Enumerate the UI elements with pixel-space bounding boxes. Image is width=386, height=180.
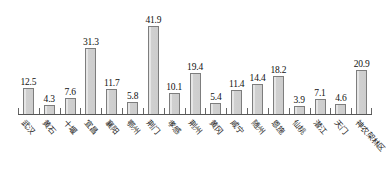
x-tick [289, 108, 310, 114]
bar-value-label: 31.3 [83, 37, 99, 47]
x-tick [185, 108, 206, 114]
tick-mark [80, 108, 81, 114]
category-label: 十堰 [61, 118, 78, 136]
tick-mark [143, 108, 144, 114]
bar-group: 5.8 [122, 6, 143, 114]
bar [85, 48, 96, 114]
x-label-slot: 黄石 [39, 116, 60, 180]
category-label: 荆州 [186, 118, 203, 136]
category-label: 黄石 [41, 118, 58, 136]
bar-value-label: 7.1 [314, 88, 325, 98]
tick-mark [164, 108, 165, 114]
bar-group: 41.9 [143, 6, 164, 114]
tick-mark [289, 108, 290, 114]
x-tick [247, 108, 268, 114]
tick-mark [226, 108, 227, 114]
category-label: 神农架林区 [353, 118, 386, 154]
x-label-slot: 孝感 [164, 116, 185, 180]
x-tick [164, 108, 185, 114]
bar-value-label: 18.2 [270, 65, 286, 75]
x-axis-ticks [18, 108, 372, 114]
x-label-slot: 荆门 [143, 116, 164, 180]
category-label: 潜江 [311, 118, 328, 136]
x-tick [122, 108, 143, 114]
x-label-slot: 潜江 [310, 116, 331, 180]
category-label: 荆门 [145, 118, 162, 136]
x-tick [268, 108, 289, 114]
bar-group: 18.2 [268, 6, 289, 114]
bar-group: 5.4 [205, 6, 226, 114]
x-tick [39, 108, 60, 114]
tick-mark [39, 108, 40, 114]
bar [148, 26, 159, 114]
bar-group: 11.4 [226, 6, 247, 114]
x-tick [205, 108, 226, 114]
bar-group: 11.7 [101, 6, 122, 114]
category-label: 咸宁 [228, 118, 245, 136]
x-label-slot: 鄂州 [122, 116, 143, 180]
tick-mark [18, 108, 19, 114]
tick-mark [185, 108, 186, 114]
plot-area: 12.54.37.631.311.75.841.910.119.45.411.4… [18, 6, 372, 114]
bar-value-label: 14.4 [250, 73, 266, 83]
tick-mark [60, 108, 61, 114]
x-label-slot: 武汉 [18, 116, 39, 180]
tick-mark [351, 108, 352, 114]
x-tick [60, 108, 81, 114]
x-axis-labels: 武汉黄石十堰宜昌襄阳鄂州荆门孝感荆州黄冈咸宁随州恩施仙桃潜江天门神农架林区 [18, 116, 372, 180]
x-tick [101, 108, 122, 114]
bar-group: 7.1 [310, 6, 331, 114]
x-tick [80, 108, 101, 114]
bars-container: 12.54.37.631.311.75.841.910.119.45.411.4… [18, 6, 372, 114]
x-tick [310, 108, 331, 114]
bar-group: 14.4 [247, 6, 268, 114]
bar-value-label: 5.4 [210, 92, 221, 102]
category-label: 武汉 [20, 118, 37, 136]
category-label: 随州 [249, 118, 266, 136]
bar-value-label: 4.6 [335, 93, 346, 103]
tick-mark [122, 108, 123, 114]
x-label-slot: 黄冈 [205, 116, 226, 180]
tick-mark [330, 108, 331, 114]
x-label-slot: 神农架林区 [351, 116, 372, 180]
x-label-slot: 宜昌 [80, 116, 101, 180]
tick-mark [247, 108, 248, 114]
x-label-slot: 恩施 [268, 116, 289, 180]
bar-value-label: 10.1 [166, 82, 182, 92]
x-label-slot: 仙桃 [289, 116, 310, 180]
bar-group: 10.1 [164, 6, 185, 114]
x-label-slot: 随州 [247, 116, 268, 180]
x-tick [226, 108, 247, 114]
bar-value-label: 4.3 [44, 94, 55, 104]
bar-value-label: 3.9 [294, 95, 305, 105]
bar-value-label: 20.9 [354, 59, 370, 69]
x-label-slot: 咸宁 [226, 116, 247, 180]
bar-group: 19.4 [185, 6, 206, 114]
bar-value-label: 11.4 [229, 79, 244, 89]
x-tick [18, 108, 39, 114]
tick-mark [371, 108, 372, 114]
bar-value-label: 12.5 [20, 77, 36, 87]
bar-group: 3.9 [289, 6, 310, 114]
x-label-slot: 十堰 [60, 116, 81, 180]
category-label: 仙桃 [290, 118, 307, 136]
category-label: 天门 [332, 118, 349, 136]
x-label-slot: 天门 [330, 116, 351, 180]
bar-group: 4.6 [330, 6, 351, 114]
bar-group: 4.3 [39, 6, 60, 114]
bar-group: 12.5 [18, 6, 39, 114]
category-label: 鄂州 [124, 118, 141, 136]
tick-mark [310, 108, 311, 114]
bar-value-label: 7.6 [64, 87, 75, 97]
bar-value-label: 5.8 [127, 91, 138, 101]
tick-mark [268, 108, 269, 114]
category-label: 恩施 [270, 118, 287, 136]
x-label-slot: 荆州 [185, 116, 206, 180]
x-label-slot: 襄阳 [101, 116, 122, 180]
x-axis-line [18, 114, 372, 115]
x-tick [330, 108, 351, 114]
bar-value-label: 41.9 [145, 15, 161, 25]
tick-mark [101, 108, 102, 114]
tick-mark [205, 108, 206, 114]
